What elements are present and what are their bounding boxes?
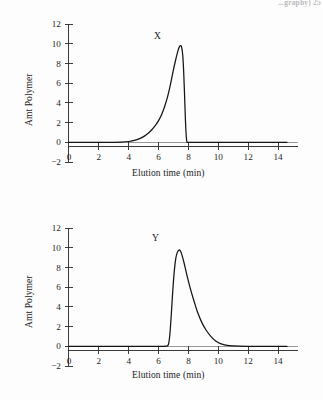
- chart-x-tick-label: 10: [214, 152, 224, 162]
- chart-y-tick-label: 0: [56, 341, 61, 351]
- chart-y-tick-label: 0: [56, 137, 61, 147]
- chart-x-tick-label: 10: [214, 356, 224, 366]
- chart-x-figure: −202468101202468101214 Amt Polymer Eluti…: [0, 0, 323, 200]
- chart-x-tick-label: 4: [126, 356, 131, 366]
- chart-y-tick-label: 12: [52, 223, 62, 233]
- chart-y-x-axis-label: Elution time (min): [132, 370, 205, 380]
- chart-y-series-annotation: Y: [152, 233, 159, 243]
- chart-x-y-axis-label: Amt Polymer: [24, 73, 34, 126]
- chart-x-tick-label: 8: [186, 152, 191, 162]
- chart-x-series-annotation: X: [154, 31, 161, 41]
- chart-x-tick-label: 2: [97, 356, 102, 366]
- chart-x-tick-label: 6: [156, 152, 161, 162]
- chart-x-tick-label: 0: [67, 356, 72, 366]
- chart-y-tick-label: 10: [52, 243, 62, 253]
- chart-y-tick-label: −2: [51, 157, 61, 167]
- chart-data-curve: [69, 46, 287, 143]
- chart-y-tick-label: 4: [56, 302, 61, 312]
- chart-x-tick-label: 8: [186, 356, 191, 366]
- chart-y-tick-label: 4: [56, 98, 61, 108]
- chart-y-tick-label: 6: [56, 282, 61, 292]
- chart-y-tick-label: 2: [56, 322, 61, 332]
- chart-x-tick-label: 12: [244, 356, 254, 366]
- chart-x-tick-label: 14: [273, 356, 283, 366]
- chart-y-tick-label: −2: [51, 361, 61, 371]
- chart-y-tick-label: 8: [56, 59, 61, 69]
- chart-x-x-axis-label: Elution time (min): [132, 168, 205, 178]
- chart-y-tick-label: 12: [52, 19, 62, 29]
- chart-y-tick-label: 10: [52, 39, 62, 49]
- chart-y-y-axis-label: Amt Polymer: [24, 275, 34, 328]
- chart-y-tick-label: 2: [56, 118, 61, 128]
- chart-x-tick-label: 6: [156, 356, 161, 366]
- chart-x-tick-label: 0: [67, 152, 72, 162]
- chart-x-tick-label: 14: [273, 152, 283, 162]
- chart-y-tick-label: 6: [56, 78, 61, 88]
- chart-data-curve: [69, 250, 287, 346]
- chart-x-tick-label: 4: [126, 152, 131, 162]
- figure-page: ...graphy) 25 −202468101202468101214 Amt…: [0, 0, 323, 400]
- chart-y-figure: −202468101202468101214 Amt Polymer Eluti…: [0, 200, 323, 400]
- chart-x-tick-label: 12: [244, 152, 254, 162]
- chart-y-tick-label: 8: [56, 263, 61, 273]
- chart-x-tick-label: 2: [97, 152, 102, 162]
